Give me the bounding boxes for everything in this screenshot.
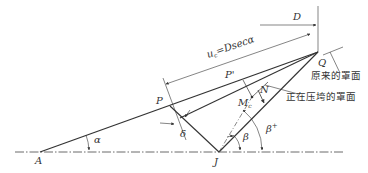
label-original-mask: 原来的罩面 [311,70,361,81]
label-a: A [34,155,42,166]
label-p: P [155,95,163,106]
label-beta: β [242,131,249,142]
label-alpha: α [94,134,101,145]
delta-arrow-1 [160,123,174,124]
label-p-prime: P' [224,69,234,80]
label-j: J [212,156,219,167]
label-beta-plus: β+ [265,122,278,134]
collapsing-mask-line [219,52,318,152]
mask-collapse-diagram: A P P' Q J N Mc D uc=Dsecα α δ β β+ 原来的罩… [0,0,368,173]
label-q: Q [318,57,326,68]
original-mask-leader [323,47,343,55]
p-prime-m-line [243,80,252,97]
label-d: D [292,11,301,22]
beta-inner-arc [227,136,233,137]
label-n: N [259,84,270,95]
label-collapsing-mask: 正在压垮的罩面 [286,91,356,102]
label-uc: uc=Dsecα [205,33,256,61]
beta-plus-arc [243,110,262,150]
p-j-line [170,106,219,152]
label-delta: δ [180,128,186,139]
alpha-arc [86,135,89,150]
label-m: Mc [237,97,252,109]
original-mask-line [40,52,318,152]
point-m [251,96,254,99]
